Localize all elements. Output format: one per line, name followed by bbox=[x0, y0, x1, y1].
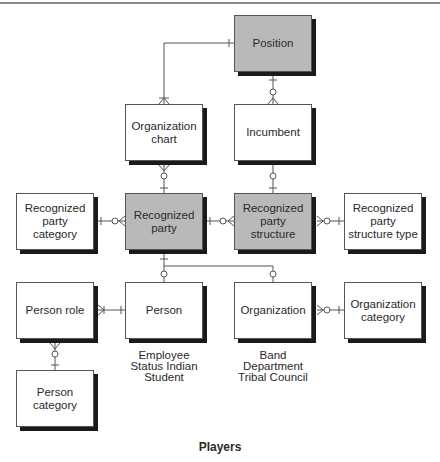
entity-recognized-party-structure[interactable]: Recognized party structure bbox=[234, 193, 312, 250]
entity-recognized-party-structure-type[interactable]: Recognized party structure type bbox=[344, 193, 422, 250]
entity-person-role[interactable]: Person role bbox=[16, 282, 94, 339]
entity-organization[interactable]: Organization bbox=[234, 282, 312, 339]
entity-position[interactable]: Position bbox=[234, 15, 312, 72]
diagram-title: Players bbox=[0, 440, 440, 454]
entity-person-category[interactable]: Person category bbox=[16, 370, 94, 427]
organization-examples-caption: Band Department Tribal Council bbox=[224, 350, 322, 383]
entity-incumbent[interactable]: Incumbent bbox=[234, 104, 312, 161]
entity-organization-category[interactable]: Organization category bbox=[344, 282, 422, 339]
entity-person[interactable]: Person bbox=[125, 282, 203, 339]
entity-recognized-party-category[interactable]: Recognized party category bbox=[16, 193, 94, 250]
entity-recognized-party[interactable]: Recognized party bbox=[125, 193, 203, 250]
entity-organization-chart[interactable]: Organization chart bbox=[125, 104, 203, 161]
person-examples-caption: Employee Status Indian Student bbox=[120, 350, 208, 383]
